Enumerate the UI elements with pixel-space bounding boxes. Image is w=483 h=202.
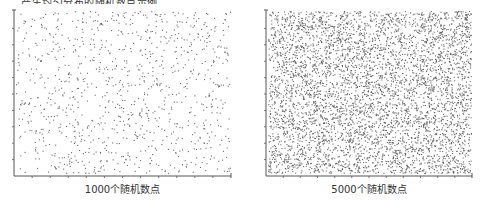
scatter-plot-5000-canvas	[262, 8, 476, 180]
scatter-plot-1000	[10, 8, 235, 180]
truncated-top-text: ……产生均匀分布的随机数点示例……	[0, 0, 240, 4]
scatter-plot-5000	[262, 8, 476, 180]
scatter-plot-1000-canvas	[10, 8, 235, 180]
caption-5000-points: 5000个随机数点	[262, 181, 476, 196]
caption-1000-points: 1000个随机数点	[10, 181, 235, 196]
